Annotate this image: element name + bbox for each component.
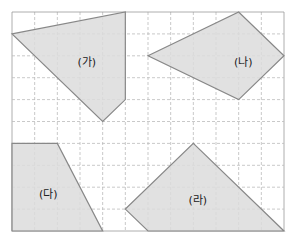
label-ra: (라) — [189, 194, 208, 207]
label-da: (다) — [39, 188, 58, 201]
grid-diagram: (가) (나) (다) (라) — [0, 0, 294, 240]
label-ga: (가) — [78, 56, 97, 69]
shape-ra — [125, 143, 284, 231]
shape-ga — [12, 12, 125, 122]
label-na: (나) — [234, 56, 253, 69]
shape-na — [148, 12, 284, 100]
